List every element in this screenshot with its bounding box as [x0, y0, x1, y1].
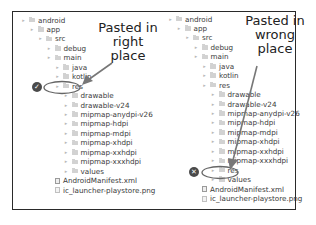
folder-icon — [72, 131, 78, 136]
disclosure-triangle-icon[interactable]: ▸ — [64, 148, 69, 157]
tree-row-label: res — [72, 82, 83, 91]
disclosure-triangle-icon[interactable]: ▸ — [64, 157, 69, 166]
disclosure-triangle-icon[interactable]: ▸ — [202, 71, 207, 80]
tree-row-android[interactable]: ▸android — [21, 16, 65, 25]
tree-row-label: values — [228, 175, 251, 184]
disclosure-triangle-icon[interactable]: ▸ — [211, 90, 216, 99]
tree-row-mipmap-anydpi-v26[interactable]: ▸mipmap-anydpi-v26 — [211, 109, 300, 118]
disclosure-triangle-icon[interactable]: ▸ — [211, 100, 216, 109]
tree-row-debug[interactable]: ▸debug — [194, 43, 234, 52]
tree-row-kotlin[interactable]: ▸kotlin — [55, 72, 92, 81]
tree-row-androidmanifest-xml[interactable]: AndroidManifest.xml — [55, 176, 137, 185]
folder-icon — [219, 168, 225, 173]
disclosure-triangle-icon[interactable]: ▸ — [211, 147, 216, 156]
tree-row-main[interactable]: ▸main — [47, 53, 82, 62]
tree-row-mipmap-anydpi-v26[interactable]: ▸mipmap-anydpi-v26 — [64, 110, 153, 119]
disclosure-triangle-icon[interactable]: ▸ — [202, 81, 207, 90]
disclosure-triangle-icon[interactable]: ▸ — [194, 43, 199, 52]
tree-row-java[interactable]: ▸java — [202, 62, 234, 71]
tree-row-label: res — [219, 81, 230, 90]
disclosure-triangle-icon[interactable]: ▸ — [211, 166, 216, 175]
tree-row-label: drawable-v24 — [228, 100, 277, 109]
tree-row-drawable-v24[interactable]: ▸drawable-v24 — [211, 100, 277, 109]
folder-icon — [72, 141, 78, 146]
folder-icon — [38, 27, 44, 32]
x-icon: ✕ — [189, 167, 199, 177]
disclosure-triangle-icon[interactable]: ▸ — [47, 53, 52, 62]
tree-row-app[interactable]: ▸app — [30, 25, 61, 34]
tree-row-drawable[interactable]: ▸drawable — [211, 90, 261, 99]
disclosure-triangle-icon[interactable]: ▸ — [194, 52, 199, 61]
disclosure-triangle-icon[interactable]: ▸ — [64, 167, 69, 176]
tree-row-mipmap-xhdpi[interactable]: ▸mipmap-xhdpi — [64, 138, 133, 147]
disclosure-triangle-icon[interactable]: ▸ — [64, 138, 69, 147]
tree-row-app[interactable]: ▸app — [177, 24, 208, 33]
tree-row-mipmap-xxhdpi[interactable]: ▸mipmap-xxhdpi — [211, 147, 284, 156]
tree-row-src[interactable]: ▸src — [38, 34, 66, 43]
folder-icon — [63, 74, 69, 79]
disclosure-triangle-icon[interactable]: ▸ — [64, 110, 69, 119]
tree-row-values[interactable]: ▸values — [64, 167, 104, 176]
tree-row-values[interactable]: ▸values — [211, 175, 251, 184]
tree-row-androidmanifest-xml[interactable]: AndroidManifest.xml — [202, 185, 284, 194]
disclosure-triangle-icon[interactable]: ▸ — [211, 128, 216, 137]
disclosure-triangle-icon[interactable]: ▸ — [47, 44, 52, 53]
folder-icon — [210, 83, 216, 88]
disclosure-triangle-icon[interactable]: ▸ — [64, 101, 69, 110]
tree-row-label: android — [38, 16, 65, 25]
disclosure-triangle-icon[interactable]: ▸ — [55, 72, 60, 81]
disclosure-triangle-icon[interactable]: ▸ — [185, 33, 190, 42]
tree-row-mipmap-xxxhdpi[interactable]: ▸mipmap-xxxhdpi — [64, 157, 142, 166]
tree-row-label: kotlin — [72, 72, 92, 81]
tree-row-main[interactable]: ▸main — [194, 52, 229, 61]
disclosure-triangle-icon[interactable]: ▸ — [211, 118, 216, 127]
tree-row-label: AndroidManifest.xml — [210, 185, 284, 194]
disclosure-triangle-icon[interactable]: ▸ — [38, 34, 43, 43]
disclosure-triangle-icon[interactable]: ▸ — [202, 62, 207, 71]
folder-icon — [202, 55, 208, 60]
tree-row-res[interactable]: ▸res — [202, 81, 230, 90]
disclosure-triangle-icon[interactable]: ▸ — [211, 137, 216, 146]
disclosure-triangle-icon[interactable]: ▸ — [64, 129, 69, 138]
disclosure-triangle-icon[interactable]: ▸ — [30, 25, 35, 34]
disclosure-triangle-icon[interactable]: ▸ — [64, 119, 69, 128]
tree-row-label: app — [194, 24, 208, 33]
tree-row-ic-launcher-playstore-png[interactable]: ic_launcher-playstore.png — [55, 186, 155, 195]
tree-row-res[interactable]: ▸res — [55, 82, 83, 91]
tree-row-mipmap-xxhdpi[interactable]: ▸mipmap-xxhdpi — [64, 148, 137, 157]
tree-row-java[interactable]: ▸java — [55, 63, 87, 72]
disclosure-triangle-icon[interactable]: ▸ — [168, 15, 173, 24]
tree-row-mipmap-mdpi[interactable]: ▸mipmap-mdpi — [64, 129, 131, 138]
tree-row-debug[interactable]: ▸debug — [47, 44, 87, 53]
disclosure-triangle-icon[interactable]: ▸ — [55, 63, 60, 72]
folder-icon — [219, 92, 225, 97]
tree-row-mipmap-xhdpi[interactable]: ▸mipmap-xhdpi — [211, 137, 280, 146]
tree-row-mipmap-xxxhdpi[interactable]: ▸mipmap-xxxhdpi — [211, 156, 289, 165]
disclosure-triangle-icon[interactable]: ▸ — [177, 24, 182, 33]
tree-row-kotlin[interactable]: ▸kotlin — [202, 71, 239, 80]
tree-row-drawable[interactable]: ▸drawable — [64, 91, 114, 100]
tree-row-label: drawable-v24 — [81, 101, 130, 110]
tree-row-label: mipmap-anydpi-v26 — [228, 109, 300, 118]
left-annotation-line-1: Pasted in — [98, 21, 158, 35]
tree-row-mipmap-mdpi[interactable]: ▸mipmap-mdpi — [211, 128, 278, 137]
tree-row-label: mipmap-mdpi — [81, 129, 131, 138]
tree-row-mipmap-hdpi[interactable]: ▸mipmap-hdpi — [211, 118, 276, 127]
tree-row-src[interactable]: ▸src — [185, 33, 213, 42]
folder-icon — [219, 149, 225, 154]
disclosure-triangle-icon[interactable]: ▸ — [64, 91, 69, 100]
tree-row-android[interactable]: ▸android — [168, 15, 212, 24]
tree-row-mipmap-hdpi[interactable]: ▸mipmap-hdpi — [64, 119, 129, 128]
disclosure-triangle-icon[interactable]: ▸ — [21, 16, 26, 25]
folder-icon — [72, 169, 78, 174]
disclosure-triangle-icon[interactable]: ▸ — [211, 156, 216, 165]
tree-row-label: res — [228, 166, 239, 175]
tree-row-res[interactable]: ▸res — [211, 166, 239, 175]
tree-row-ic-launcher-playstore-png[interactable]: ic_launcher-playstore.png — [202, 194, 302, 203]
disclosure-triangle-icon[interactable]: ▸ — [211, 109, 216, 118]
disclosure-triangle-icon[interactable]: ▸ — [211, 175, 216, 184]
disclosure-triangle-icon[interactable]: ▸ — [55, 82, 60, 91]
tree-row-drawable-v24[interactable]: ▸drawable-v24 — [64, 101, 130, 110]
tree-row-label: src — [55, 34, 66, 43]
folder-icon — [72, 93, 78, 98]
